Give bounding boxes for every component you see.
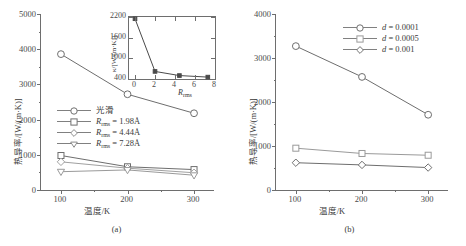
y-tick-label: 3000 <box>239 54 271 63</box>
inset-y-axis-title: κ/[W/(m·K)] <box>111 36 118 72</box>
legend-label-d-0005: d = 0.0005 <box>377 34 419 43</box>
inset-x-tick-label: 8 <box>212 81 216 89</box>
legend-label-smooth: 光滑 <box>91 106 114 115</box>
y-tick-minor <box>39 137 41 138</box>
x-tick-minor <box>161 190 162 192</box>
legend-item-d-001[interactable]: d = 0.001 <box>343 44 419 55</box>
legend-item-d-0001[interactable]: d = 0.0001 <box>343 22 419 33</box>
y-tick-minor <box>39 102 41 103</box>
x-tick-minor <box>329 190 330 192</box>
y-tick-minor <box>39 32 41 33</box>
y-tick <box>37 14 41 15</box>
inset-x-tick-label: 6 <box>192 81 196 89</box>
legend-marker-circle-icon <box>57 105 91 116</box>
legend-item-rrms-444[interactable]: Rrms = 4.44Å <box>57 127 140 138</box>
y-tick-minor <box>274 36 276 37</box>
legend-a: 光滑 Rrms = 1.98Å Rrms = 4.44Å <box>57 105 140 149</box>
x-tick-label: 100 <box>54 195 67 204</box>
inset-y-tick-right <box>211 58 215 59</box>
inset-x-tick <box>135 75 136 79</box>
y-tick-minor <box>39 172 41 173</box>
inset-x-tick-label: 2 <box>152 81 156 89</box>
legend-item-rrms-198[interactable]: Rrms = 1.98Å <box>57 116 140 127</box>
inset-x-tick-top <box>215 17 216 21</box>
inset-plot-area <box>128 16 216 80</box>
inset-series-line <box>129 17 215 79</box>
inset-y-tick-right <box>211 38 215 39</box>
y-tick-label: 3000 <box>4 80 36 89</box>
y-axis-title-a: 热导率/[W/(m·K)] <box>14 98 23 165</box>
panel-caption-a: (a) <box>0 224 233 234</box>
legend-marker-square-icon <box>57 116 91 127</box>
figure-root: 010002000300040005000 100200300 热导率/[W/(… <box>0 0 466 246</box>
inset-y-tick <box>129 58 133 59</box>
legend-label-rrms-728: Rrms = 7.28Å <box>91 139 140 148</box>
x-tick-minor <box>94 190 95 192</box>
inset-x-tick <box>195 75 196 79</box>
panel-b: 01000200030004000 100200300 热导率/[W/(m·K)… <box>233 0 466 246</box>
legend-item-d-0005[interactable]: d = 0.0005 <box>343 33 419 44</box>
y-tick <box>37 155 41 156</box>
y-tick-minor <box>274 80 276 81</box>
legend-marker-diamond-icon <box>57 127 91 138</box>
x-axis-title-b: 温度/K <box>319 207 346 216</box>
y-tick-label: 0 <box>239 186 271 195</box>
y-tick-minor <box>274 168 276 169</box>
y-tick-minor <box>39 67 41 68</box>
y-tick <box>272 190 276 191</box>
y-tick <box>37 120 41 121</box>
x-tick-label: 200 <box>355 195 368 204</box>
inset-x-tick <box>175 75 176 79</box>
inset-x-axis-title: Rrms <box>178 89 192 97</box>
inset-x-tick-label: 4 <box>172 81 176 89</box>
x-tick-label: 100 <box>288 195 301 204</box>
inset-x-tick-label: 0 <box>132 81 136 89</box>
inset-x-tick-top <box>135 17 136 21</box>
inset-y-tick-label: 2200 <box>104 12 126 20</box>
y-tick-minor <box>274 124 276 125</box>
inset-x-tick-top <box>195 17 196 21</box>
y-axis-title-b: 热导率/[W/(m·K)] <box>249 98 258 165</box>
y-tick <box>272 102 276 103</box>
y-tick <box>272 14 276 15</box>
y-tick-label: 5000 <box>4 10 36 19</box>
legend-marker-diamond-icon <box>343 44 377 55</box>
panel-caption-b: (b) <box>233 224 466 234</box>
inset-y-tick-label: 400 <box>104 74 126 82</box>
inset-x-tick-top <box>155 17 156 21</box>
legend-b: d = 0.0001 d = 0.0005 d = 0.001 <box>343 22 419 55</box>
legend-marker-triangle-down-icon <box>57 138 91 149</box>
legend-marker-square-icon <box>343 33 377 44</box>
inset-x-tick-top <box>175 17 176 21</box>
y-tick <box>37 190 41 191</box>
inset-y-tick <box>129 38 133 39</box>
y-tick <box>272 146 276 147</box>
x-tick-label: 300 <box>421 195 434 204</box>
y-tick <box>37 84 41 85</box>
y-tick-label: 0 <box>4 186 36 195</box>
panel-a: 010002000300040005000 100200300 热导率/[W/(… <box>0 0 233 246</box>
x-tick-label: 200 <box>120 195 133 204</box>
inset-y-tick <box>129 17 133 18</box>
y-tick-label: 4000 <box>4 45 36 54</box>
legend-item-rrms-728[interactable]: Rrms = 7.28Å <box>57 138 140 149</box>
y-tick <box>272 58 276 59</box>
legend-item-smooth[interactable]: 光滑 <box>57 105 140 116</box>
y-tick <box>37 49 41 50</box>
y-tick-label: 4000 <box>239 10 271 19</box>
x-tick-label: 300 <box>187 195 200 204</box>
legend-label-rrms-198: Rrms = 1.98Å <box>91 117 140 126</box>
legend-label-rrms-444: Rrms = 4.44Å <box>91 128 140 137</box>
x-axis-title-a: 温度/K <box>84 207 111 216</box>
inset-x-tick <box>155 75 156 79</box>
inset-x-tick <box>215 75 216 79</box>
legend-marker-circle-icon <box>343 22 377 33</box>
legend-label-d-0001: d = 0.0001 <box>377 23 419 32</box>
x-tick-minor <box>395 190 396 192</box>
legend-label-d-001: d = 0.001 <box>377 45 414 54</box>
